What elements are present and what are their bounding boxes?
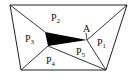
geometry-diagram: A P1 P2 P3 P4 P5: [0, 0, 133, 79]
region-label-p1: P1: [97, 37, 107, 50]
edge-shade-to-bl: [21, 46, 48, 70]
region-label-p3: P3: [25, 33, 35, 46]
region-label-p2: P2: [51, 12, 61, 25]
tick-a: [86, 33, 87, 40]
point-a-label: A: [83, 23, 91, 34]
shaded-triangle: [45, 32, 87, 46]
edge-tl-to-shade: [10, 5, 45, 32]
region-label-p4: P4: [46, 55, 56, 68]
region-label-p5: P5: [76, 46, 86, 59]
